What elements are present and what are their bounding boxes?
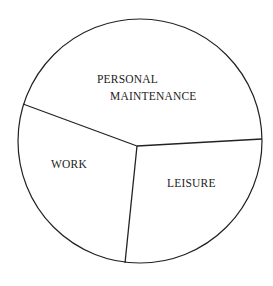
slice-label-leisure: LEISURE [167,177,216,189]
slice-label-personal-line2: MAINTENANCE [110,90,197,102]
slice-label-work: WORK [51,158,87,170]
slice-label-personal-line1: PERSONAL [97,73,158,85]
pie-chart [0,0,273,286]
